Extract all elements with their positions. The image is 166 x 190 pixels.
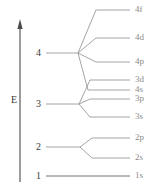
orbital-label-3p: 3p [135, 94, 144, 103]
shell-number-2: 2 [36, 142, 41, 152]
orbital-label-4f: 4f [135, 5, 143, 14]
orbital-label-2p: 2p [135, 133, 144, 142]
orbital-label-4p: 4p [135, 57, 144, 66]
shell-number-4: 4 [36, 48, 41, 58]
branch-line-3s [79, 104, 90, 117]
shell-number-3: 3 [36, 99, 41, 109]
branch-line-2s [80, 147, 92, 158]
branch-line-4f [78, 10, 96, 53]
orbital-label-1s: 1s [135, 171, 143, 180]
orbital-label-4d: 4d [135, 33, 144, 42]
shell-number-1: 1 [36, 171, 41, 181]
orbital-label-2s: 2s [135, 153, 143, 162]
orbital-label-3d: 3d [135, 75, 144, 84]
branch-line-4s [78, 53, 88, 90]
orbital-label-3s: 3s [135, 112, 143, 121]
branch-line-2p [80, 138, 92, 147]
energy-axis-arrowhead-icon [17, 19, 22, 29]
branch-line-4p [78, 53, 96, 62]
branch-line-3d [79, 80, 90, 104]
branch-lines [78, 10, 96, 158]
orbital-energy-diagram: 1234 4f4d4p3d4s3p3s2p2s1s E [0, 0, 166, 190]
orbital-level-lines [46, 10, 130, 176]
energy-axis [17, 19, 22, 182]
energy-axis-label: E [11, 95, 17, 105]
